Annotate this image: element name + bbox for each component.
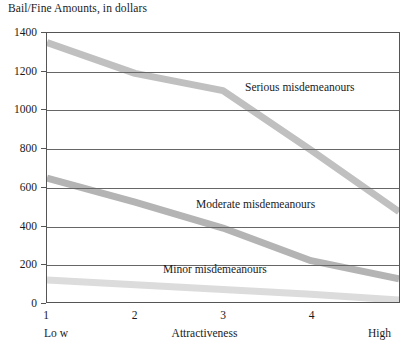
- y-tick-label: 800: [20, 142, 37, 154]
- y-tick-label: 400: [20, 220, 37, 232]
- gridline: [47, 149, 399, 150]
- y-tick-label: 1000: [14, 103, 37, 115]
- series-lines: [47, 33, 399, 302]
- x-tick-label: 3: [220, 309, 226, 321]
- x-axis-high-label: High: [368, 327, 391, 339]
- series-label-moderate: Moderate misdemeanours: [196, 198, 315, 210]
- chart-container: Bail/Fine Amounts, in dollars 0200400600…: [0, 0, 409, 350]
- y-axis: 0200400600800100012001400: [0, 32, 46, 303]
- gridline: [47, 110, 399, 111]
- gridline: [47, 188, 399, 189]
- y-tick-label: 200: [20, 258, 37, 270]
- x-axis-title: Attractiveness: [0, 327, 409, 339]
- x-tick-label: 4: [309, 309, 315, 321]
- gridline: [47, 72, 399, 73]
- y-tick-label: 1400: [14, 26, 37, 38]
- y-tick-label: 600: [20, 181, 37, 193]
- y-tick-label: 0: [31, 297, 37, 309]
- chart-title: Bail/Fine Amounts, in dollars: [8, 2, 147, 14]
- x-tick-label: 1: [43, 309, 49, 321]
- series-line-3: [47, 280, 399, 300]
- series-line-1: [47, 43, 399, 212]
- series-label-serious: Serious misdemeanours: [245, 81, 355, 93]
- series-label-minor: Minor misdemeanours: [163, 263, 267, 275]
- gridline: [47, 227, 399, 228]
- x-tick-label: 2: [132, 309, 138, 321]
- y-tick-label: 1200: [14, 65, 37, 77]
